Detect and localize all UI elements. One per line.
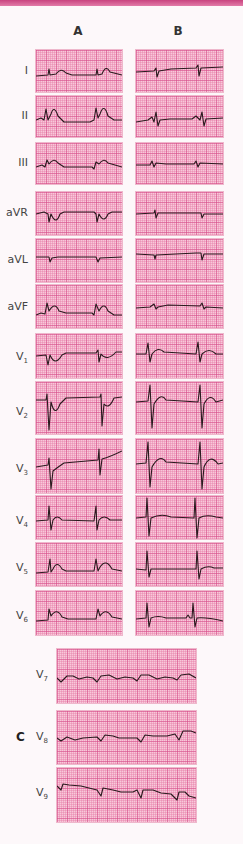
ecg-strip-c-v7	[56, 648, 197, 704]
ecg-strip-b-v3	[135, 438, 224, 494]
lead-label-avl: aVL	[0, 253, 28, 266]
ecg-strip-b-iii	[135, 142, 224, 185]
lead-label-v3: V3	[0, 462, 28, 477]
lead-label-v8: V8	[20, 730, 48, 745]
ecg-strip-a-i	[35, 49, 123, 93]
lead-label-i: I	[0, 64, 28, 77]
ecg-strip-a-v5	[35, 542, 123, 587]
top-color-band	[0, 0, 243, 6]
ecg-strip-a-avl	[35, 238, 123, 283]
ecg-strip-a-v6	[35, 590, 123, 636]
lead-label-v6: V6	[0, 609, 28, 624]
ecg-strip-a-v3	[35, 438, 123, 494]
lead-label-v1: V1	[0, 350, 28, 365]
ecg-strip-b-avf	[135, 284, 224, 329]
ecg-strip-a-v1	[35, 333, 123, 379]
lead-label-v5: V5	[0, 561, 28, 576]
ecg-strip-b-v4	[135, 495, 224, 540]
lead-label-iii: III	[0, 156, 28, 169]
ecg-strip-b-avl	[135, 238, 224, 283]
ecg-strip-a-iii	[35, 142, 123, 185]
ecg-strip-b-avr	[135, 191, 224, 236]
lead-label-avr: aVR	[0, 206, 28, 219]
lead-label-ii: II	[0, 109, 28, 122]
lead-label-v2: V2	[0, 405, 28, 420]
ecg-strip-a-avf	[35, 284, 123, 329]
lead-label-avf: aVF	[0, 300, 28, 313]
column-header-a: A	[68, 24, 88, 38]
ecg-strip-b-i	[135, 49, 224, 93]
ecg-strip-a-avr	[35, 191, 123, 236]
ecg-strip-c-v9	[56, 767, 197, 823]
column-header-b: B	[168, 24, 188, 38]
lead-label-v7: V7	[20, 668, 48, 683]
ecg-strip-b-v1	[135, 333, 224, 379]
lead-label-v4: V4	[0, 514, 28, 529]
ecg-strip-b-ii	[135, 95, 224, 138]
ecg-strip-a-v2	[35, 381, 123, 435]
ecg-strip-b-v2	[135, 381, 224, 435]
ecg-strip-a-ii	[35, 95, 123, 138]
ecg-strip-b-v6	[135, 590, 224, 636]
ecg-strip-c-v8	[56, 710, 197, 765]
ecg-strip-b-v5	[135, 542, 224, 587]
ecg-strip-a-v4	[35, 495, 123, 540]
lead-label-v9: V9	[20, 786, 48, 801]
